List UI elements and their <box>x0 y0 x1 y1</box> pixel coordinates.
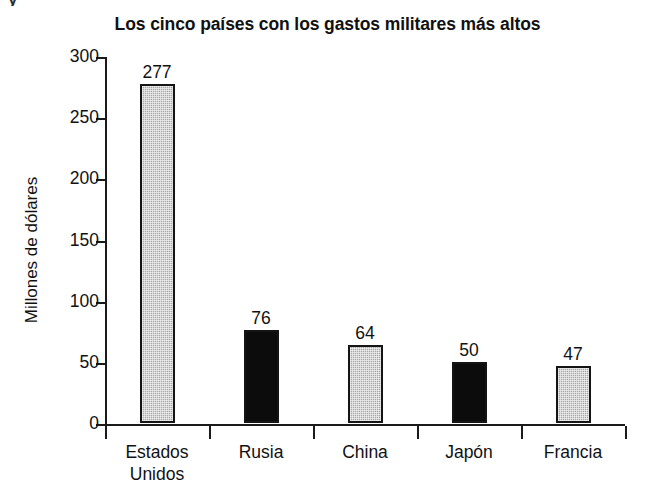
x-category-label-line: China <box>313 441 417 463</box>
bar-value-label: 277 <box>142 62 171 83</box>
bar[interactable]: 277 <box>140 84 175 423</box>
x-category-label: China <box>313 441 417 463</box>
plot-area: 050100150200250300 27776645047 EstadosUn… <box>105 57 625 425</box>
x-axis-line <box>105 424 625 426</box>
bar[interactable]: 50 <box>452 362 487 423</box>
x-tick-mark <box>625 426 627 439</box>
y-tick-label: 150 <box>39 230 99 251</box>
x-tick-mark <box>209 426 211 439</box>
bar-value-label: 76 <box>251 308 270 329</box>
x-category-label-line: Estados <box>105 441 209 463</box>
bar-value-label: 64 <box>355 323 374 344</box>
y-tick-label: 100 <box>39 291 99 312</box>
bar-value-label: 50 <box>459 340 478 361</box>
x-category-label: Japón <box>417 441 521 463</box>
cropped-text-fragment: y <box>8 0 188 6</box>
y-tick-label: 50 <box>39 352 99 373</box>
y-tick-label: 300 <box>39 46 99 67</box>
x-tick-mark <box>521 426 523 439</box>
x-category-label-line: Rusia <box>209 441 313 463</box>
x-category-label: Rusia <box>209 441 313 463</box>
bar-value-label: 47 <box>563 344 582 365</box>
x-category-label-line: Unidos <box>105 463 209 485</box>
bar[interactable]: 76 <box>244 330 279 423</box>
x-category-label-line: Francia <box>521 441 625 463</box>
x-tick-mark <box>105 426 107 439</box>
x-tick-mark <box>313 426 315 439</box>
x-category-label: EstadosUnidos <box>105 441 209 485</box>
x-category-label: Francia <box>521 441 625 463</box>
bar[interactable]: 64 <box>348 345 383 423</box>
y-tick-label: 0 <box>39 413 99 434</box>
x-category-label-line: Japón <box>417 441 521 463</box>
y-tick-label: 250 <box>39 107 99 128</box>
x-tick-mark <box>417 426 419 439</box>
bar[interactable]: 47 <box>556 366 591 423</box>
y-tick-label: 200 <box>39 168 99 189</box>
chart-title: Los cinco países con los gastos militare… <box>0 14 655 35</box>
